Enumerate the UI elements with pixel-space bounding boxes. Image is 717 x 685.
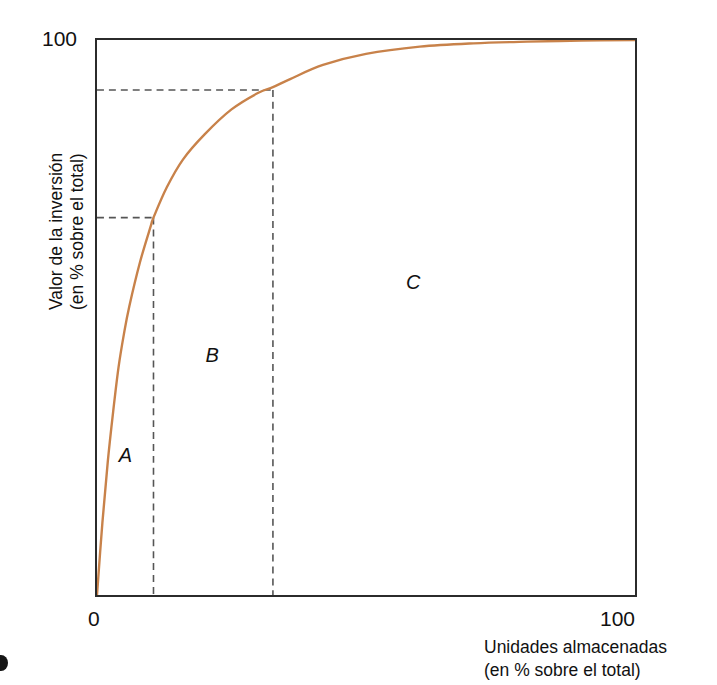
y-axis-tick-label-100: 100	[42, 28, 77, 49]
x-axis-title-line-2: (en % sobre el total)	[484, 659, 667, 682]
x-axis-title-line-1: Unidades almacenadas	[484, 636, 667, 659]
region-label-a: A	[119, 445, 132, 465]
region-label-b: B	[206, 345, 219, 365]
pareto-curve	[97, 40, 635, 595]
x-axis-tick-label-100: 100	[600, 608, 635, 629]
y-axis-title-line-2: (en % sobre el total)	[67, 10, 88, 310]
region-label-c: C	[406, 272, 420, 292]
page-edge-artifact	[0, 655, 8, 671]
plot-svg-overlay	[97, 40, 635, 595]
y-axis-title: Valor de la inversión (en % sobre el tot…	[46, 10, 88, 310]
x-axis-title: Unidades almacenadas (en % sobre el tota…	[484, 636, 667, 682]
abc-pareto-chart-figure: Valor de la inversión (en % sobre el tot…	[0, 0, 717, 685]
plot-area	[95, 38, 637, 597]
y-axis-title-line-1: Valor de la inversión	[46, 10, 67, 310]
x-axis-tick-label-0: 0	[88, 608, 100, 629]
y-axis-title-container: Valor de la inversión (en % sobre el tot…	[0, 0, 60, 350]
